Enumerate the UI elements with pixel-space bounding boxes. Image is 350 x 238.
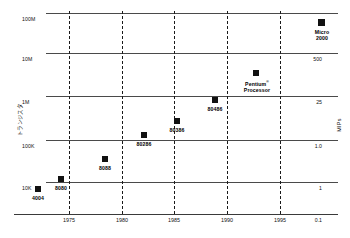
marker-80386 — [174, 118, 180, 124]
marker-pentium — [253, 70, 259, 76]
label-8088: 8088 — [90, 165, 120, 171]
marker-8080 — [58, 176, 64, 182]
marker-8088 — [102, 156, 108, 162]
label-micro2000-line2: 2000 — [316, 35, 328, 41]
data-points: 4004 8080 8088 80286 80386 80486 Pentium… — [0, 0, 350, 238]
label-80286: 80286 — [128, 141, 160, 147]
registered-trademark-icon: ® — [266, 80, 269, 84]
label-80486: 80486 — [199, 106, 231, 112]
label-80386: 80386 — [161, 127, 193, 133]
label-micro2000-line1: Micro — [315, 29, 329, 35]
label-8080: 8080 — [46, 185, 76, 191]
transistor-count-chart: 100M 10M 1M 100K 10K 500 25 1.0 1 0.1 19… — [0, 0, 350, 238]
marker-80486 — [212, 97, 218, 103]
marker-4004 — [35, 186, 41, 192]
marker-micro2000 — [318, 19, 325, 26]
label-pentium-line2: Processor — [244, 87, 270, 93]
marker-80286 — [141, 132, 147, 138]
label-micro2000: Micro2000 — [304, 29, 340, 41]
label-pentium: Pentium®Processor — [233, 79, 281, 93]
label-pentium-line1: Pentium — [245, 81, 266, 87]
label-4004: 4004 — [23, 195, 53, 201]
